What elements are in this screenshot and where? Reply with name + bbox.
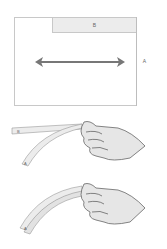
hand-icon	[81, 122, 145, 161]
hand-bend-figure-1: B A	[0, 118, 167, 173]
label-b: B	[93, 23, 96, 28]
strip-label-a: A	[24, 161, 27, 166]
hand-bend-figure-2: A	[0, 180, 167, 240]
double-arrow-icon	[35, 55, 125, 69]
strip-b: B	[52, 17, 137, 33]
hand-icon	[81, 184, 145, 225]
strip-a: A	[136, 17, 152, 106]
label-a: A	[143, 59, 146, 64]
strip-label-a-2: A	[24, 226, 27, 231]
strip-label-b: B	[17, 129, 20, 134]
